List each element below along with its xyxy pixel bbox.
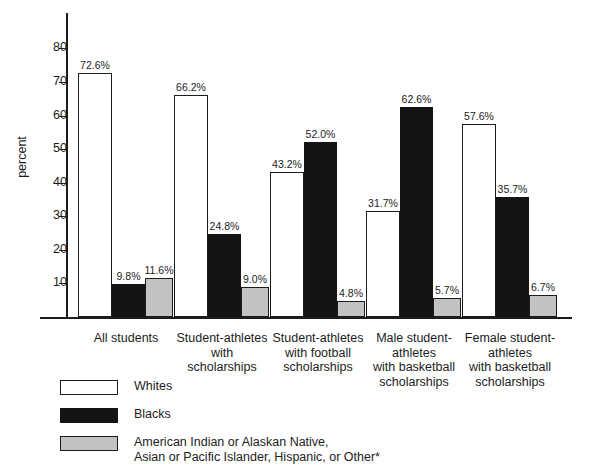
legend-item: American Indian or Alaskan Native, Asian… <box>60 435 380 464</box>
bar-value-label: 72.6% <box>77 60 113 71</box>
legend-swatch <box>60 380 118 395</box>
bar <box>78 73 112 317</box>
legend-label: Whites <box>134 379 172 394</box>
bar <box>462 124 496 317</box>
plot-area: percent 1020304050607080 72.6%9.8%11.6%6… <box>0 0 590 465</box>
y-tick-mark <box>59 250 67 251</box>
chart-figure: percent 1020304050607080 72.6%9.8%11.6%6… <box>0 0 590 465</box>
y-tick-mark <box>59 183 67 184</box>
bar-value-label: 57.6% <box>461 111 497 122</box>
bar-value-label: 35.7% <box>495 184 531 195</box>
y-tick-mark <box>59 283 67 284</box>
bar <box>270 172 304 317</box>
y-tick-mark <box>59 116 67 117</box>
legend-swatch <box>60 408 118 423</box>
y-tick-mark <box>59 216 67 217</box>
legend-swatch <box>60 436 118 451</box>
bar <box>112 284 145 317</box>
bar-value-label: 5.7% <box>429 285 465 296</box>
bar-value-label: 24.8% <box>207 221 243 232</box>
bar-value-label: 52.0% <box>303 129 339 140</box>
bar <box>145 278 173 317</box>
legend-item: Whites <box>60 379 172 395</box>
y-tick-mark <box>59 149 67 150</box>
bar <box>496 197 529 317</box>
bar <box>529 295 557 317</box>
bar-value-label: 9.0% <box>237 274 273 285</box>
bar <box>241 287 269 317</box>
legend-item: Blacks <box>60 407 171 423</box>
legend-label: Blacks <box>134 407 171 422</box>
bar-value-label: 6.7% <box>525 282 561 293</box>
category-label: Female student- athletes with basketball… <box>450 331 570 389</box>
bar <box>174 95 208 317</box>
y-tick-mark <box>59 82 67 83</box>
bar-value-label: 66.2% <box>173 82 209 93</box>
bar <box>337 301 365 317</box>
y-tick-mark <box>59 48 67 49</box>
y-axis-title: percent <box>15 122 29 192</box>
y-axis-line <box>66 13 68 318</box>
legend-label: American Indian or Alaskan Native, Asian… <box>134 435 380 464</box>
bar <box>433 298 461 317</box>
bar-value-label: 62.6% <box>399 94 435 105</box>
bar <box>366 211 400 317</box>
bar-value-label: 31.7% <box>365 198 401 209</box>
bar-value-label: 11.6% <box>141 265 177 276</box>
bar-value-label: 43.2% <box>269 159 305 170</box>
x-axis-line <box>40 317 572 319</box>
bar-value-label: 4.8% <box>333 288 369 299</box>
